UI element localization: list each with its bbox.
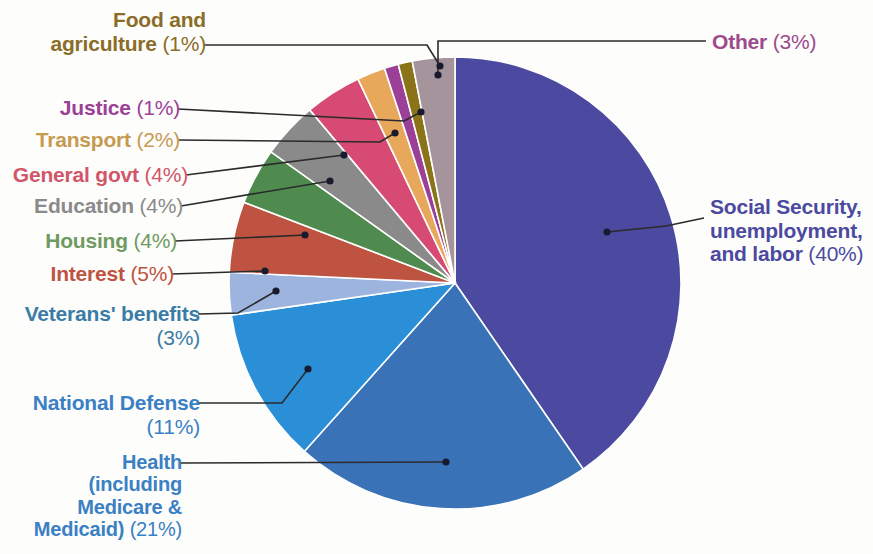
dot-other [434, 71, 441, 78]
label-transport: Transport (2%) [0, 128, 180, 152]
label-interest: Interest (5%) [0, 262, 174, 286]
label-health: Health (including Medicare & Medicaid) (… [0, 451, 182, 541]
label-national-defense-text: National Defense [33, 391, 200, 414]
label-health-text: Health [122, 451, 182, 473]
dot-general-govt [340, 151, 347, 158]
dot-social-security [603, 228, 610, 235]
label-food-and-agriculture: Food and agriculture (1%) [0, 8, 206, 55]
dot-food-and-agriculture [436, 62, 443, 69]
label-social-security-pct: (40%) [808, 242, 863, 265]
label-general-govt-pct: (4%) [144, 163, 188, 186]
label-transport-pct: (2%) [136, 128, 180, 151]
label-education-pct: (4%) [139, 194, 183, 217]
label-social-security-line3: and labor [710, 242, 803, 265]
dot-education [326, 177, 333, 184]
label-national-defense-pct: (11%) [147, 415, 200, 438]
label-food-and-agriculture-line1: Food and [113, 8, 206, 31]
label-food-and-agriculture-pct: (1%) [162, 32, 206, 55]
label-housing-pct: (4%) [133, 229, 177, 252]
label-veterans-benefits-text: Veterans' benefits [25, 302, 200, 325]
dot-transport [391, 129, 398, 136]
label-other-pct: (3%) [773, 30, 817, 53]
label-health-line2: (including [88, 473, 182, 495]
label-health-line4: Medicaid) [34, 518, 124, 540]
label-interest-text: Interest [51, 262, 125, 285]
label-other: Other (3%) [712, 30, 816, 54]
label-housing: Housing (4%) [0, 229, 177, 253]
dot-veterans-benefits [272, 287, 279, 294]
label-justice-pct: (1%) [136, 96, 180, 119]
label-other-text: Other [712, 30, 767, 53]
label-health-pct: (21%) [130, 518, 182, 540]
pie-slices [229, 57, 681, 509]
dot-national-defense [304, 365, 311, 372]
pie-chart-figure: Food and agriculture (1%) Justice (1%) T… [0, 0, 873, 554]
label-general-govt: General govt (4%) [0, 163, 188, 187]
label-national-defense: National Defense (11%) [0, 391, 200, 438]
leader-health [180, 462, 446, 463]
label-interest-pct: (5%) [130, 262, 174, 285]
label-veterans-benefits-pct: (3%) [156, 326, 200, 349]
dot-interest [261, 267, 268, 274]
label-social-security: Social Security, unemployment, and labor… [710, 195, 863, 266]
label-social-security-line2: unemployment, [710, 219, 863, 242]
label-education: Education (4%) [0, 194, 183, 218]
label-justice: Justice (1%) [0, 96, 180, 120]
dot-health [442, 458, 449, 465]
label-justice-text: Justice [60, 96, 131, 119]
label-food-and-agriculture-line2: agriculture [50, 32, 156, 55]
label-housing-text: Housing [45, 229, 128, 252]
dot-housing [301, 231, 308, 238]
label-veterans-benefits: Veterans' benefits (3%) [0, 302, 200, 349]
label-social-security-line1: Social Security, [710, 195, 862, 218]
label-general-govt-text: General govt [13, 163, 139, 186]
dot-justice [417, 108, 424, 115]
label-health-line3: Medicare & [77, 496, 182, 518]
label-education-text: Education [34, 194, 134, 217]
label-transport-text: Transport [36, 128, 131, 151]
